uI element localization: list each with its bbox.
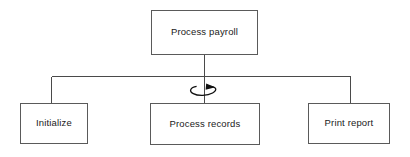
process-node-process-records[interactable]: Process records (150, 103, 260, 145)
node-label: Print report (325, 118, 374, 128)
node-label: Process payroll (171, 27, 238, 37)
structure-chart-canvas: Process payroll Initialize Process recor… (0, 0, 410, 157)
iteration-loop-arrow-icon (191, 84, 216, 96)
node-label: Initialize (36, 118, 72, 128)
process-node-initialize[interactable]: Initialize (20, 103, 88, 144)
process-node-process-payroll[interactable]: Process payroll (151, 10, 258, 55)
node-label: Process records (170, 119, 241, 129)
process-node-print-report[interactable]: Print report (308, 103, 390, 144)
